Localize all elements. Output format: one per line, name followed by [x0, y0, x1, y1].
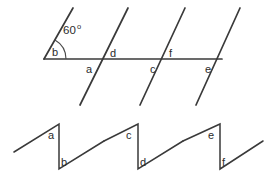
bottom-zigzag-figure: a b c d e f [14, 124, 263, 169]
top-transversal-figure: 60 o b a d c f e [44, 8, 240, 105]
parallel-line-3 [196, 8, 240, 105]
label-c-zigzag-top-2: c [126, 129, 132, 141]
label-c-intersection-2: c [150, 63, 156, 75]
label-e-zigzag-top-3: e [208, 129, 214, 141]
label-d-zigzag-bottom-2: d [140, 156, 146, 168]
label-b-vertex: b [52, 46, 58, 58]
angle-measure-60: 60 [63, 24, 76, 36]
parallel-line-2 [140, 8, 185, 105]
label-f-intersection-2: f [169, 47, 173, 59]
geometry-diagram-canvas: 60 o b a d c f e a b c d e f [0, 0, 276, 181]
label-d-intersection-1: d [110, 47, 116, 59]
label-e-intersection-3: e [205, 63, 211, 75]
parallel-line-1 [80, 8, 128, 105]
label-b-zigzag-bottom-1: b [61, 156, 67, 168]
zigzag-segment-1 [14, 124, 104, 169]
label-a-intersection-1: a [86, 63, 93, 75]
geometry-figure: 60 o b a d c f e a b c d e f [0, 0, 276, 181]
label-a-zigzag-top-1: a [48, 129, 55, 141]
degree-symbol-icon: o [77, 22, 81, 31]
